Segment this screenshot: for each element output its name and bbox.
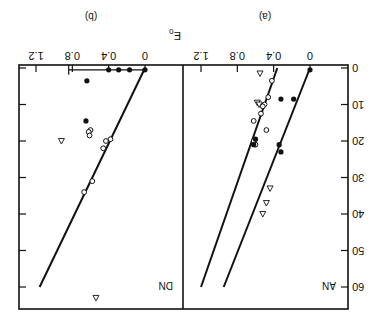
- x-tick-label: 0.8: [65, 50, 80, 62]
- panel-label-b: (b): [85, 11, 97, 22]
- plot-frame: 010203040506000.40.81.200.40.81.2: [19, 50, 364, 309]
- plot-content: [40, 65, 313, 301]
- figure: 010203040506000.40.81.200.40.81.2 E0 (a)…: [0, 0, 378, 322]
- filled-circle-marker: [251, 142, 256, 147]
- y-tick-label: 60: [352, 281, 364, 293]
- y-tick-label: 0: [352, 62, 358, 74]
- open-circle-marker: [101, 146, 106, 151]
- open-circle-marker: [269, 78, 274, 83]
- filled-circle-marker: [106, 67, 111, 72]
- filled-circle-marker: [278, 96, 283, 101]
- inset-label-dn: DN: [159, 280, 173, 291]
- y-tick-label: 40: [352, 208, 364, 220]
- x-tick-label: 0: [307, 50, 313, 62]
- filled-circle-marker: [291, 96, 296, 101]
- chart-svg: 010203040506000.40.81.200.40.81.2 E0 (a)…: [0, 0, 378, 322]
- filled-circle-marker: [127, 67, 132, 72]
- x-tick-label: 0.8: [230, 50, 245, 62]
- x-tick-label: 1.2: [28, 50, 43, 62]
- filled-circle-marker: [307, 67, 312, 72]
- open-circle-marker: [104, 139, 109, 144]
- x-tick-label: 0.4: [101, 50, 116, 62]
- filled-circle-marker: [83, 118, 88, 123]
- open-circle-marker: [264, 128, 269, 133]
- filled-circle-marker: [116, 67, 121, 72]
- open-triangle-marker: [93, 295, 99, 301]
- open-triangle-marker: [257, 71, 263, 77]
- x-axis-title: E0: [169, 27, 181, 42]
- y-tick-label: 50: [352, 245, 364, 257]
- panel-label-a: (a): [259, 11, 271, 22]
- x-tick-label: 0.4: [266, 50, 281, 62]
- y-tick-label: 30: [352, 172, 364, 184]
- open-circle-marker: [87, 133, 92, 138]
- filled-circle-marker: [84, 78, 89, 83]
- open-circle-marker: [266, 95, 271, 100]
- open-triangle-marker: [58, 139, 64, 145]
- open-triangle-marker: [260, 212, 266, 218]
- x-tick-label: 0: [142, 50, 148, 62]
- filled-circle-marker: [253, 137, 258, 142]
- open-circle-marker: [90, 179, 95, 184]
- open-circle-marker: [82, 190, 87, 195]
- filled-circle-marker: [278, 149, 283, 154]
- x-tick-label: 1.2: [193, 50, 208, 62]
- filled-circle-marker: [277, 142, 282, 147]
- inset-label-an: AN: [322, 280, 336, 291]
- filled-circle-marker: [142, 67, 147, 72]
- open-circle-marker: [251, 119, 256, 124]
- y-tick-label: 10: [352, 99, 364, 111]
- open-triangle-marker: [263, 201, 269, 207]
- fit-line: [40, 68, 145, 287]
- open-circle-marker: [259, 111, 264, 116]
- open-triangle-marker: [267, 186, 273, 192]
- y-tick-label: 20: [352, 135, 364, 147]
